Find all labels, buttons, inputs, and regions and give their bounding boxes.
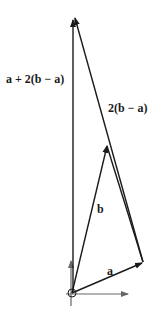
label-b: b [97,203,104,215]
vector-b [72,146,107,293]
label-a: a [107,265,113,277]
vector-2-b-minus-a [75,18,143,262]
vector-diagram: a + 2(b − a) 2(b − a) b a [0,0,156,319]
diagram-svg [0,0,156,319]
label-sum: a + 2(b − a) [6,73,64,85]
label-diff: 2(b − a) [108,102,148,114]
